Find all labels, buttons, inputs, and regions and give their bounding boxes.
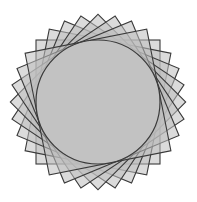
rotated-squares-diagram	[0, 0, 197, 202]
inner-circle	[36, 40, 160, 164]
